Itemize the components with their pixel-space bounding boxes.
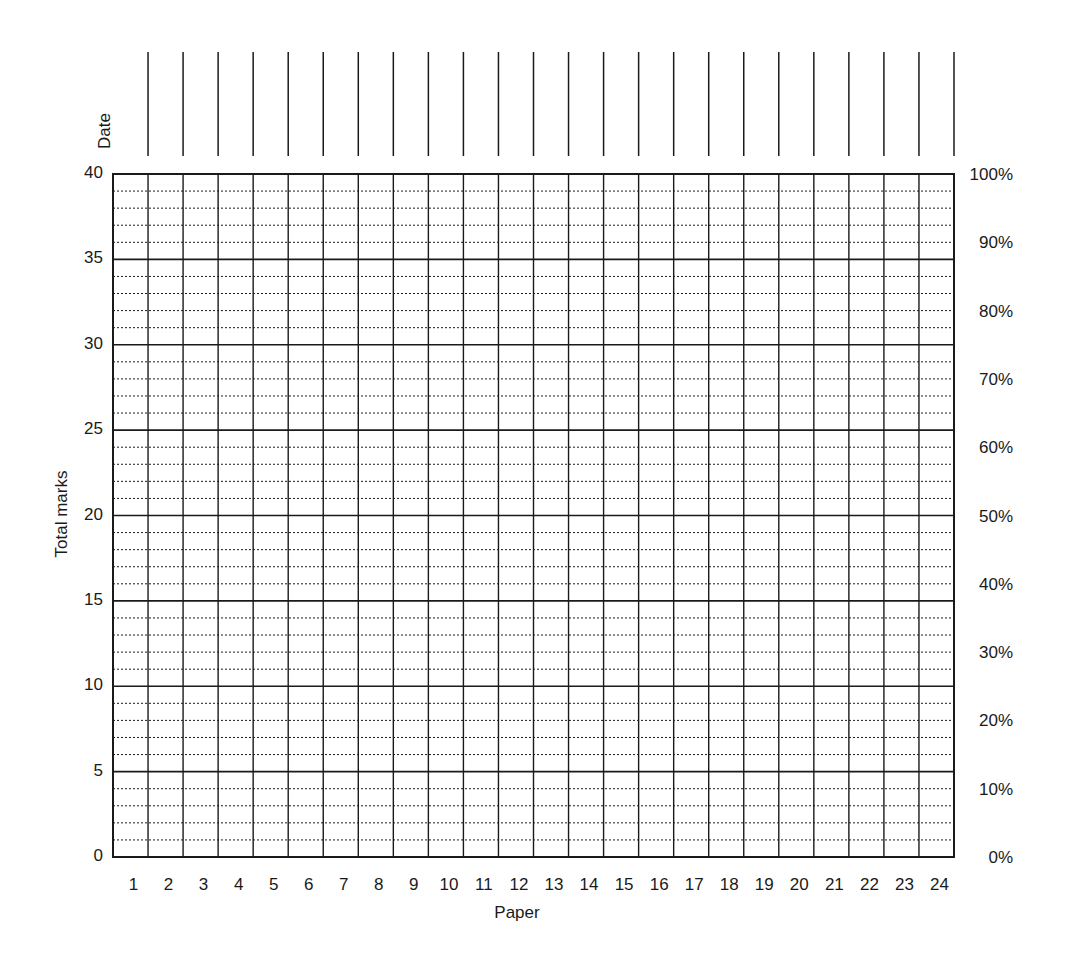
percent-tick-label: 40% xyxy=(979,575,1013,594)
x-tick-label: 12 xyxy=(510,875,529,894)
percent-tick-label: 100% xyxy=(970,165,1013,184)
date-entry-lines xyxy=(148,52,954,156)
x-tick-label: 13 xyxy=(545,875,564,894)
percent-tick-label: 90% xyxy=(979,233,1013,252)
x-axis-title: Paper xyxy=(494,903,540,922)
x-tick-label: 17 xyxy=(685,875,704,894)
percent-tick-label: 30% xyxy=(979,643,1013,662)
x-tick-label: 8 xyxy=(374,875,383,894)
y-tick-label: 20 xyxy=(84,505,103,524)
x-tick-label: 2 xyxy=(164,875,173,894)
x-tick-label: 11 xyxy=(475,875,493,894)
y-tick-label: 5 xyxy=(94,761,103,780)
x-tick-label: 21 xyxy=(825,875,844,894)
x-tick-label: 5 xyxy=(269,875,278,894)
x-tick-label: 10 xyxy=(439,875,458,894)
x-tick-label: 20 xyxy=(790,875,809,894)
percent-tick-label: 50% xyxy=(979,507,1013,526)
y-tick-label: 40 xyxy=(84,163,103,182)
x-tick-label: 22 xyxy=(860,875,879,894)
y-tick-label: 15 xyxy=(84,590,103,609)
percent-axis-tick-labels: 0%10%20%30%40%50%60%70%80%90%100% xyxy=(970,165,1013,867)
y-axis-tick-labels: 0510152025303540 xyxy=(84,163,103,865)
x-tick-label: 6 xyxy=(304,875,313,894)
percent-tick-label: 80% xyxy=(979,302,1013,321)
y-tick-label: 0 xyxy=(94,846,103,865)
x-tick-label: 19 xyxy=(755,875,774,894)
x-axis-tick-labels: 123456789101112131415161718192021222324 xyxy=(129,875,949,894)
x-tick-label: 18 xyxy=(720,875,739,894)
percent-tick-label: 20% xyxy=(979,711,1013,730)
x-tick-label: 23 xyxy=(895,875,914,894)
y-tick-label: 30 xyxy=(84,334,103,353)
x-tick-label: 3 xyxy=(199,875,208,894)
y-tick-label: 35 xyxy=(84,248,103,267)
percent-tick-label: 10% xyxy=(979,780,1013,799)
date-label: Date xyxy=(95,113,114,149)
percent-tick-label: 0% xyxy=(988,848,1013,867)
y-tick-label: 25 xyxy=(84,419,103,438)
x-tick-label: 7 xyxy=(339,875,348,894)
score-tracking-chart: 0510152025303540 0%10%20%30%40%50%60%70%… xyxy=(0,0,1067,976)
x-tick-label: 16 xyxy=(650,875,669,894)
x-tick-label: 15 xyxy=(615,875,634,894)
y-tick-label: 10 xyxy=(84,675,103,694)
x-tick-label: 1 xyxy=(129,875,138,894)
x-tick-label: 24 xyxy=(930,875,949,894)
x-tick-label: 4 xyxy=(234,875,243,894)
y-axis-title: Total marks xyxy=(52,471,71,558)
percent-tick-label: 60% xyxy=(979,438,1013,457)
x-tick-label: 9 xyxy=(409,875,418,894)
x-tick-label: 14 xyxy=(580,875,599,894)
percent-tick-label: 70% xyxy=(979,370,1013,389)
